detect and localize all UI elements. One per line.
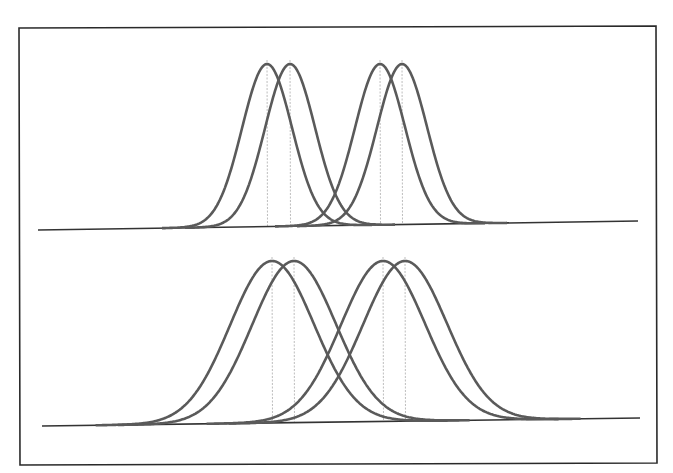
figure-frame [19,26,657,465]
distribution-curves [162,64,507,228]
mean-marker-line [267,60,268,227]
gaussian-comparison-diagram [0,0,673,473]
top-panel-narrow-distributions [38,60,638,230]
mean-marker-line [380,60,381,225]
mean-marker-line [290,60,291,226]
bottom-panel-wide-distributions [42,257,640,426]
mean-marker-line [402,60,403,225]
distribution-curves [96,261,581,425]
mean-lines [272,257,406,423]
mean-lines [267,60,403,227]
